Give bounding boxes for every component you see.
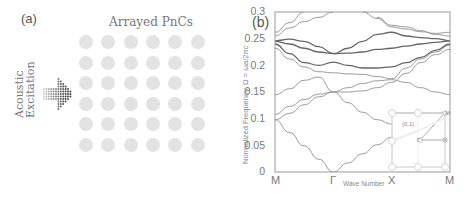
pnc-cell <box>191 76 205 90</box>
pnc-cell <box>146 97 160 111</box>
pnc-cell <box>168 97 182 111</box>
pnc-cell <box>101 138 115 152</box>
excitation-label-line2: Excitation <box>25 72 37 118</box>
y-tick-0.3: 0.3 <box>229 5 265 17</box>
pnc-cell <box>79 35 93 49</box>
pnc-cell <box>146 56 160 70</box>
excitation-label: Acoustic Excitation <box>14 72 37 118</box>
x-tick-Gamma: Γ <box>330 174 336 186</box>
band-line <box>275 80 450 115</box>
pnc-cell <box>124 35 138 49</box>
pnc-cell <box>79 117 93 131</box>
x-tick-M-left: M <box>271 174 280 186</box>
panel-a: (a) Arrayed PnCs Acoustic Excitation <box>0 0 232 197</box>
x-tick-M-right: M <box>445 174 454 186</box>
pnc-cell <box>191 138 205 152</box>
y-tick-0: 0 <box>229 165 265 177</box>
inset-point-Gamma: Γ <box>417 137 420 143</box>
pnc-cell <box>168 117 182 131</box>
pnc-cell <box>101 97 115 111</box>
pnc-cell <box>101 56 115 70</box>
pnc-cell <box>124 117 138 131</box>
panel-b: (b) 0.3 0.25 0.2 0.15 0.1 0.05 0 Normali… <box>232 0 464 197</box>
y-axis-label: Normalized Frequency, Ω = ωa/2πc <box>241 46 250 164</box>
band-line <box>275 32 450 53</box>
pnc-cell <box>146 35 160 49</box>
band-line <box>275 41 450 54</box>
pnc-cell <box>191 117 205 131</box>
band-line <box>275 12 304 32</box>
pnc-cell <box>146 117 160 131</box>
inset-lattice-label: (0,1) <box>402 121 414 127</box>
pnc-cell <box>124 56 138 70</box>
pnc-cell <box>79 76 93 90</box>
band-line <box>275 92 392 124</box>
pnc-cell <box>168 76 182 90</box>
pnc-cell <box>168 56 182 70</box>
excitation-arrow-icon <box>43 78 71 110</box>
pnc-cell <box>124 76 138 90</box>
pnc-cell <box>191 97 205 111</box>
band-line <box>275 120 392 172</box>
inset-point-X: X <box>443 137 447 143</box>
inset-point-M: M <box>445 110 450 116</box>
pnc-cell <box>124 97 138 111</box>
x-tick-X: X <box>388 174 395 186</box>
pnc-cell <box>79 138 93 152</box>
pnc-cell <box>146 76 160 90</box>
pnc-cell <box>124 138 138 152</box>
pnc-cell <box>101 117 115 131</box>
pnc-cell <box>101 35 115 49</box>
pnc-cell <box>168 138 182 152</box>
band-line <box>275 12 333 36</box>
pnc-cell <box>79 97 93 111</box>
pnc-cell <box>191 56 205 70</box>
pnc-cell <box>191 35 205 49</box>
pnc-cell <box>168 35 182 49</box>
pnc-cell <box>79 56 93 70</box>
pnc-cell <box>101 76 115 90</box>
pnc-cell <box>146 138 160 152</box>
y-tick-0.25: 0.25 <box>229 32 265 44</box>
band-line <box>363 12 451 33</box>
x-axis-label: Wave Number <box>343 180 384 187</box>
